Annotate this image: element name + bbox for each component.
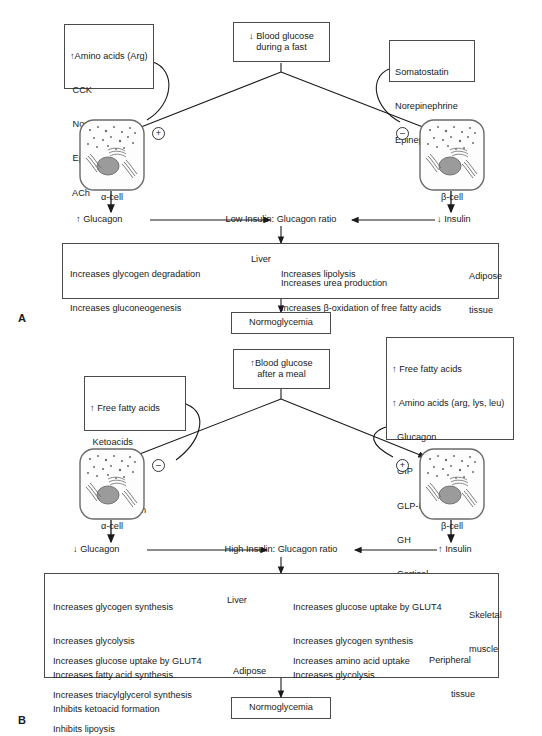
panel-b-letter: B — [18, 714, 26, 726]
panel-b-peripheral-tissue-line1: Peripheral — [429, 655, 475, 666]
panel-b-muscle-line-0: Increases glucose uptake by GLUT4 — [293, 602, 442, 613]
panel-a-liver-effects: Increases glycogen degradation Increases… — [70, 246, 200, 337]
panel-b-outcome-label: Normoglycemia — [249, 702, 313, 713]
panel-a-liver-line-1: Increases gluconeogenesis — [70, 303, 200, 314]
panel-a-right-line-1: Norepinephrine — [395, 101, 469, 112]
panel-a-beta-minus-sign: – — [396, 127, 409, 140]
panel-a-alpha-cell — [78, 118, 146, 196]
panel-b-alpha-cell — [78, 447, 146, 525]
panel-b-adipose-effects: Increases glucose uptake by GLUT4 Increa… — [53, 633, 202, 736]
panel-b-peripheral-tissue-label: Peripheral tissue — [429, 632, 475, 723]
panel-b-ratio-label: High Insulin: Glucagon ratio — [196, 544, 366, 555]
panel-b-left-stimuli-box: ↑ Free fatty acids Ketoacids Insulin Som… — [84, 376, 186, 431]
panel-b-right-stimuli-box: ↑ Free fatty acids ↑ Amino acids (arg, l… — [386, 337, 514, 440]
panel-a-insulin-label: ↓ Insulin — [437, 214, 471, 225]
panel-b-beta-plus-sign: + — [396, 459, 409, 472]
panel-b-left-line-0: ↑ Free fatty acids — [90, 403, 180, 414]
panel-a-urea-effect: Increases urea production — [281, 278, 387, 289]
panel-b-stimulus-line2: after a meal — [257, 369, 306, 380]
insulin-glucagon-regulation-figure: A ↓ Blood glucose during a fast ↑Amino a… — [0, 0, 542, 736]
panel-b-stimulus-line1: ↑Blood glucose — [250, 358, 312, 369]
panel-b-adipose-line-1: Increases triacylglycerol synthesis — [53, 690, 202, 701]
panel-b-right-line-2: Glucagon — [392, 432, 508, 443]
panel-a-stimulus-line2: during a fast — [256, 42, 307, 53]
panel-a-adipose-tissue-label: Adipose tissue — [469, 248, 502, 339]
panel-b-stimulus-box: ↑Blood glucose after a meal — [233, 349, 330, 389]
panel-a-liver-line-0: Increases glycogen degradation — [70, 269, 200, 280]
panel-a-ratio-label: Low Insulin: Glucagon ratio — [196, 214, 366, 225]
panel-b-alpha-cell-label: α-cell — [86, 521, 138, 531]
panel-b-beta-cell — [418, 447, 486, 525]
panel-a-liver-tissue-label: Liver — [251, 254, 271, 265]
panel-b-liver-tissue-label: Liver — [227, 595, 247, 606]
panel-a-glucagon-label: ↑ Glucagon — [76, 214, 122, 225]
panel-b-peripheral-tissue-line2: tissue — [429, 689, 475, 700]
panel-a-outcome-label: Normoglycemia — [249, 317, 313, 328]
panel-b-peripheral-line-0: Increases amino acid uptake — [293, 656, 410, 667]
panel-b-peripheral-effects: Increases amino acid uptake — [293, 633, 410, 690]
panel-b-adipose-line-0: Increases glucose uptake by GLUT4 — [53, 656, 202, 667]
panel-b-outcome-box: Normoglycemia — [231, 697, 331, 719]
panel-a-outcome-box: Normoglycemia — [231, 312, 331, 334]
panel-b-adipose-tissue-label: Adipose tissue — [233, 643, 266, 734]
panel-b-glucagon-label: ↓ Glucagon — [73, 544, 119, 555]
panel-a-right-line-0: Somatostatin — [395, 67, 469, 78]
panel-b-adipose-line-2: Inhibits lipoysis — [53, 724, 202, 735]
panel-b-adipose-tissue-line1: Adipose — [233, 666, 266, 677]
panel-b-beta-cell-label: β-cell — [426, 521, 478, 531]
panel-b-liver-line-0: Increases glycogen synthesis — [53, 602, 173, 613]
panel-a-beta-cell-label: β-cell — [426, 192, 478, 202]
panel-b-muscle-tissue-line1: Skeletal — [469, 610, 502, 621]
panel-b-alpha-minus-sign: – — [152, 459, 165, 472]
panel-a-stimulus-line1: ↓ Blood glucose — [249, 31, 314, 42]
panel-b-insulin-label: ↑ Insulin — [438, 544, 472, 555]
panel-a-alpha-plus-sign: + — [152, 127, 165, 140]
panel-a-right-stimuli-box: Somatostatin Norepinephrine Epinephrine — [389, 40, 475, 82]
panel-a-adipose-tissue-line2: tissue — [469, 305, 502, 316]
panel-a-stimulus-box: ↓ Blood glucose during a fast — [233, 22, 330, 62]
panel-b-right-line-0: ↑ Free fatty acids — [392, 364, 508, 375]
panel-a-left-line-1: CCK — [70, 85, 148, 96]
panel-a-left-line-0: ↑Amino acids (Arg) — [70, 51, 148, 62]
panel-a-adipose-tissue-line1: Adipose — [469, 271, 502, 282]
panel-a-left-stimuli-box: ↑Amino acids (Arg) CCK Norepinephrine Ep… — [64, 24, 154, 89]
panel-a-alpha-cell-label: α-cell — [86, 192, 138, 202]
panel-a-beta-cell — [418, 118, 486, 196]
panel-b-right-line-1: ↑ Amino acids (arg, lys, leu) — [392, 398, 508, 409]
panel-a-letter: A — [18, 312, 26, 324]
